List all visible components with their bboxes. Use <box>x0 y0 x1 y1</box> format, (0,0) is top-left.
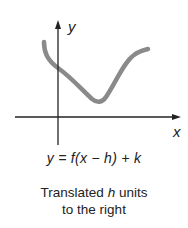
caption-variable: h <box>108 185 116 200</box>
equation: y = f(x − h) + k <box>0 150 188 166</box>
y-axis <box>55 20 61 145</box>
x-axis <box>15 114 181 120</box>
x-axis-arrow-icon <box>172 114 181 120</box>
caption-text: units <box>115 185 147 200</box>
caption-text: Translated <box>41 185 108 200</box>
caption-line-1: Translated h units <box>0 184 188 201</box>
y-axis-arrow-icon <box>55 20 61 29</box>
caption-line-2: to the right <box>0 201 188 218</box>
caption: Translated h units to the right <box>0 184 188 218</box>
y-axis-label: y <box>67 18 77 35</box>
curve <box>44 42 148 102</box>
x-axis-label: x <box>172 123 181 140</box>
